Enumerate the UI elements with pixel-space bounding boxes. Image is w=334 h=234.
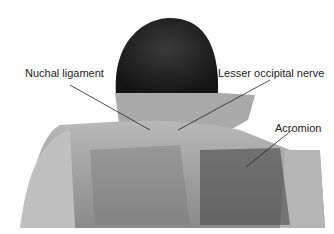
label-acromion: Acromion <box>275 122 321 134</box>
anatomy-photo <box>0 0 334 234</box>
label-lesser-occipital-nerve: Lesser occipital nerve <box>218 67 324 79</box>
head <box>116 18 218 95</box>
label-nuchal-ligament: Nuchal ligament <box>25 67 104 79</box>
